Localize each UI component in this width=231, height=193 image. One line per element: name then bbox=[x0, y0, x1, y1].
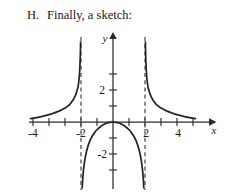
y-tick-label-neg2: -2 bbox=[97, 148, 107, 160]
figure-page: H.Finally, a sketch: bbox=[0, 0, 231, 193]
curve-left-branch bbox=[31, 42, 81, 119]
curve-right-branch bbox=[145, 42, 195, 119]
heading-text: Finally, a sketch: bbox=[47, 6, 132, 24]
x-tick-label-pos4: 4 bbox=[175, 127, 181, 139]
y-axis bbox=[109, 32, 117, 189]
x-tick-label-neg2: -2 bbox=[76, 127, 86, 139]
x-tick-label-neg4: -4 bbox=[28, 127, 38, 139]
y-axis-label: y bbox=[102, 32, 108, 44]
graph-figure: -4 -2 2 4 2 -2 x y bbox=[0, 24, 231, 193]
y-tick-label-pos2: 2 bbox=[99, 84, 105, 96]
y-axis-arrow-icon bbox=[109, 32, 117, 39]
heading-item-label: H. bbox=[27, 6, 47, 24]
x-axis-label: x bbox=[211, 124, 217, 136]
x-tick-label-pos2: 2 bbox=[143, 127, 149, 139]
page-heading: H.Finally, a sketch: bbox=[27, 6, 227, 24]
x-tick-labels: -4 -2 2 4 bbox=[28, 127, 181, 139]
